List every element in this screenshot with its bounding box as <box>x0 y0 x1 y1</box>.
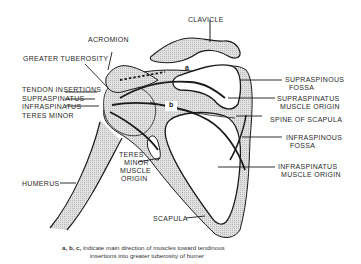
caption-line-1: indicate main direction of muscles towar… <box>81 244 224 251</box>
label-teres-minor-insertion: TERES MINOR <box>22 112 74 120</box>
label-humerus: HUMERUS <box>22 180 60 188</box>
label-supraspinatus-insertion: SUPRASPINATUS <box>22 95 85 103</box>
label-scapula: SCAPULA <box>153 215 188 223</box>
label-greater-tuberosity: GREATER TUBEROSITY <box>23 55 108 63</box>
label-supraspinous-fossa: SUPRASPINOUS FOSSA <box>285 76 344 92</box>
figure-caption: a, b, c, indicate main direction of musc… <box>62 244 225 260</box>
direction-letter-b: b <box>169 101 173 108</box>
caption-letters: a, b, c, <box>62 244 81 251</box>
shoulder-diagram <box>0 0 361 264</box>
clavicle-shape <box>150 38 240 63</box>
label-teres-minor-origin: TERES MINOR MUSCLE ORIGIN <box>117 151 157 183</box>
label-infraspinatus-insertion: INFRASPINATUS <box>22 103 81 111</box>
direction-letter-a: a <box>185 64 189 71</box>
label-spine-of-scapula: SPINE OF SCAPULA <box>270 116 342 124</box>
label-supraspinatus-origin: SUPRASPINATUS MUSCLE ORIGIN <box>277 95 340 111</box>
label-acromion: ACROMION <box>88 36 129 44</box>
label-clavicle: CLAVICLE <box>188 16 224 24</box>
label-infraspinous-fossa: INFRASPINOUS FOSSA <box>286 134 342 150</box>
caption-line-2: insertions into greater tuberosity of hu… <box>62 252 225 260</box>
label-infraspinatus-origin: INFRASPINATUS MUSCLE ORIGIN <box>278 163 341 179</box>
label-tendon-insertions: TENDON INSERTIONS <box>22 86 101 94</box>
